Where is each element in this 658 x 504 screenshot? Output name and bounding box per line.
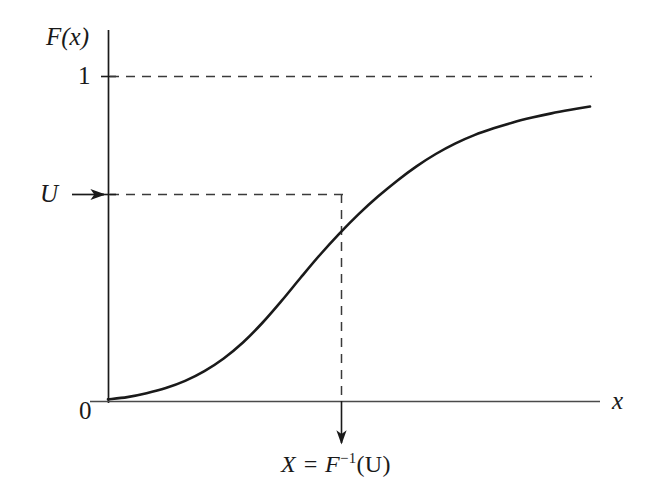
uniform-level-label: U (40, 181, 58, 206)
inverse-value-label: X = F−1(U) (281, 452, 391, 476)
inverse-value-prefix: X = F (281, 451, 340, 477)
cdf-plot-svg (0, 0, 658, 504)
cdf-curve-path (108, 107, 590, 400)
inverse-value-suffix: (U) (356, 451, 390, 477)
x-axis-label: x (612, 388, 623, 413)
y-axis-label: F(x) (46, 24, 89, 49)
y-tick-one-label: 1 (78, 63, 91, 88)
origin-label: 0 (79, 398, 92, 423)
figure-container: F(x) 1 U 0 x X = F−1(U) (0, 0, 658, 504)
inverse-value-exponent: −1 (340, 450, 356, 466)
